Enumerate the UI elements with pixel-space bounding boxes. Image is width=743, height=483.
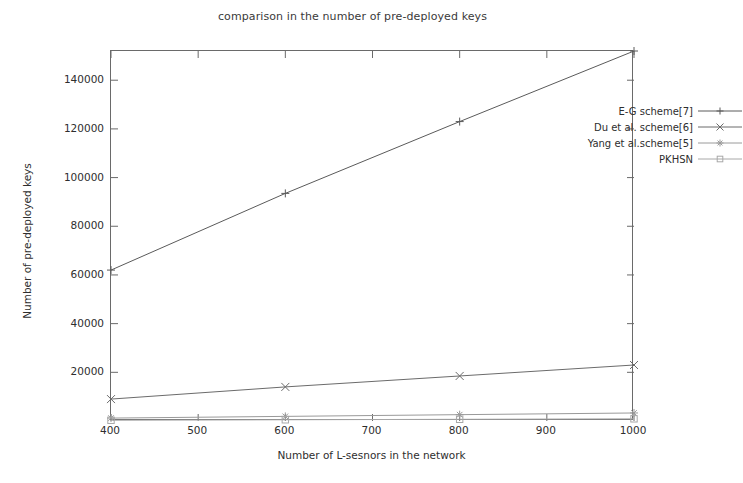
plus-icon: [630, 47, 638, 55]
y-axis-title: Number of pre-deployed keys: [21, 141, 33, 341]
legend-swatch: [697, 137, 743, 149]
y-tick-label: 100000: [44, 171, 104, 183]
x-axis-tick-labels: 4005006007008009001000: [110, 424, 633, 444]
legend-label: PKHSN: [659, 154, 693, 165]
plus-icon: [456, 118, 464, 126]
y-tick-label: 80000: [44, 219, 104, 231]
legend-label: Yang et al.scheme[5]: [588, 138, 693, 149]
y-tick-label: 40000: [44, 317, 104, 329]
x-tick-label: 700: [361, 424, 381, 436]
plus-icon: [717, 108, 724, 115]
legend-label: Du et al. scheme[6]: [594, 122, 693, 133]
legend-label: E-G scheme[7]: [619, 106, 693, 117]
plus-icon: [281, 189, 289, 197]
x-tick-label: 500: [187, 424, 207, 436]
plus-icon: [107, 266, 115, 274]
plot-canvas: [111, 51, 634, 421]
chart-legend: E-G scheme[7]Du et al. scheme[6]Yang et …: [563, 99, 743, 167]
series-line: [111, 51, 634, 270]
y-tick-label: 60000: [44, 268, 104, 280]
star-icon: [717, 140, 724, 147]
x-tick-label: 400: [100, 424, 120, 436]
x-axis-title: Number of L-sesnors in the network: [110, 449, 633, 461]
legend-swatch: [697, 105, 743, 117]
y-tick-label: 120000: [44, 122, 104, 134]
legend-swatch: [697, 153, 743, 165]
y-axis-tick-labels: 20000400006000080000100000120000140000: [36, 50, 104, 420]
x-tick-label: 800: [449, 424, 469, 436]
legend-item: E-G scheme[7]: [563, 103, 743, 119]
legend-item: Yang et al.scheme[5]: [563, 135, 743, 151]
y-tick-label: 140000: [44, 73, 104, 85]
series-line: [111, 365, 634, 399]
x-tick-label: 1000: [620, 424, 647, 436]
legend-swatch: [697, 121, 743, 133]
plot-area: E-G scheme[7]Du et al. scheme[6]Yang et …: [110, 50, 633, 420]
x-tick-label: 900: [536, 424, 556, 436]
legend-item: Du et al. scheme[6]: [563, 119, 743, 135]
chart-title: comparison in the number of pre-deployed…: [0, 10, 705, 23]
legend-item: PKHSN: [563, 151, 743, 167]
y-tick-label: 20000: [44, 365, 104, 377]
x-tick-label: 600: [274, 424, 294, 436]
